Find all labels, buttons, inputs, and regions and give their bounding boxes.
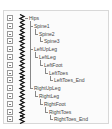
collapse-box-icon[interactable] — [7, 23, 13, 29]
tree-connector — [30, 88, 33, 89]
collapse-box-icon[interactable] — [7, 109, 13, 115]
tree-connector — [45, 73, 48, 74]
tree-connector — [25, 18, 28, 19]
tree-connector — [35, 91, 36, 96]
tree-connector — [40, 37, 41, 42]
collapse-box-icon[interactable] — [7, 116, 13, 122]
tree-connector — [40, 104, 43, 105]
bone-zigzag-icon — [18, 115, 26, 124]
tree-connector — [50, 76, 51, 81]
collapse-box-icon[interactable] — [7, 31, 13, 37]
tree-connector — [50, 80, 53, 81]
collapse-box-icon[interactable] — [7, 101, 13, 107]
collapse-box-icon[interactable] — [7, 77, 13, 83]
tree-connector — [50, 119, 53, 120]
tree-connector — [40, 60, 41, 65]
tree-connector — [35, 29, 36, 34]
tree-connector — [45, 68, 46, 73]
tree-connector — [40, 65, 43, 66]
collapse-box-icon[interactable] — [7, 46, 13, 52]
collapse-box-icon[interactable] — [7, 85, 13, 91]
collapse-box-icon[interactable] — [7, 70, 13, 76]
collapse-box-icon[interactable] — [7, 15, 13, 21]
collapse-box-icon[interactable] — [7, 62, 13, 68]
tree-connector — [40, 99, 41, 104]
tree-connector — [40, 41, 43, 42]
collapse-box-icon[interactable] — [7, 54, 13, 60]
tree-connector — [30, 21, 31, 88]
tree-connector — [35, 34, 38, 35]
tree-node-label: RightToes_End — [54, 116, 88, 123]
tree-connector — [45, 112, 48, 113]
skeleton-hierarchy-panel: HipsSpine1Spine2Spine3LeftUpLegLeftLegLe… — [3, 10, 109, 124]
tree-connector — [35, 52, 36, 57]
collapse-box-icon[interactable] — [7, 38, 13, 44]
tree-node-righttoes-end[interactable]: RightToes_End — [4, 115, 108, 124]
tree-connector — [35, 57, 38, 58]
tree-connector — [45, 107, 46, 112]
tree-connector — [35, 96, 38, 97]
collapse-box-icon[interactable] — [7, 93, 13, 99]
tree-connector — [50, 115, 51, 120]
